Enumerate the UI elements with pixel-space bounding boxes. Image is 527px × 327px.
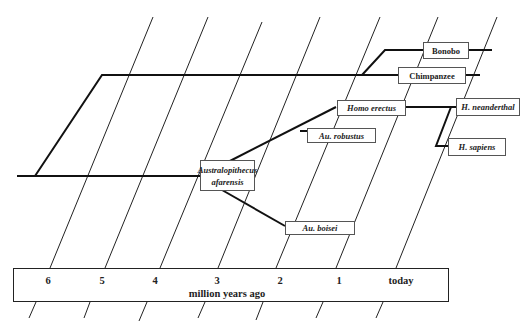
taxon-au-afarensis: Australopithecus afarensis [200, 160, 255, 191]
tick-4: 4 [152, 275, 157, 286]
taxon-label: Chimpanzee [409, 71, 454, 81]
taxon-au-robustus: Au. robustus [307, 128, 376, 143]
taxon-label: Bonobo [432, 46, 460, 56]
tick-3: 3 [214, 275, 219, 286]
taxon-label: Au. boisei [303, 223, 338, 233]
taxon-h-neanderthal: H. neanderthal [456, 98, 520, 116]
taxon-label: Homo erectus [347, 103, 396, 113]
taxon-label-line1: Australopithecus [198, 165, 258, 175]
axis-label: million years ago [189, 288, 265, 299]
timeline-axis: 6 5 4 3 2 1 today million years ago [13, 268, 449, 302]
taxon-label: Au. robustus [319, 131, 364, 141]
taxon-label: H. sapiens [459, 142, 496, 152]
tick-6: 6 [45, 275, 50, 286]
tick-2: 2 [277, 275, 282, 286]
taxon-h-sapiens: H. sapiens [448, 138, 506, 156]
taxon-chimpanzee: Chimpanzee [398, 67, 466, 84]
tick-1: 1 [336, 275, 341, 286]
taxon-label: H. neanderthal [461, 102, 514, 112]
taxon-label-line2: afarensis [211, 177, 243, 187]
taxon-au-boisei: Au. boisei [285, 221, 355, 235]
tick-5: 5 [99, 275, 104, 286]
taxon-homo-erectus: Homo erectus [337, 100, 406, 116]
taxon-bonobo: Bonobo [423, 42, 469, 59]
tick-today: today [388, 275, 413, 286]
